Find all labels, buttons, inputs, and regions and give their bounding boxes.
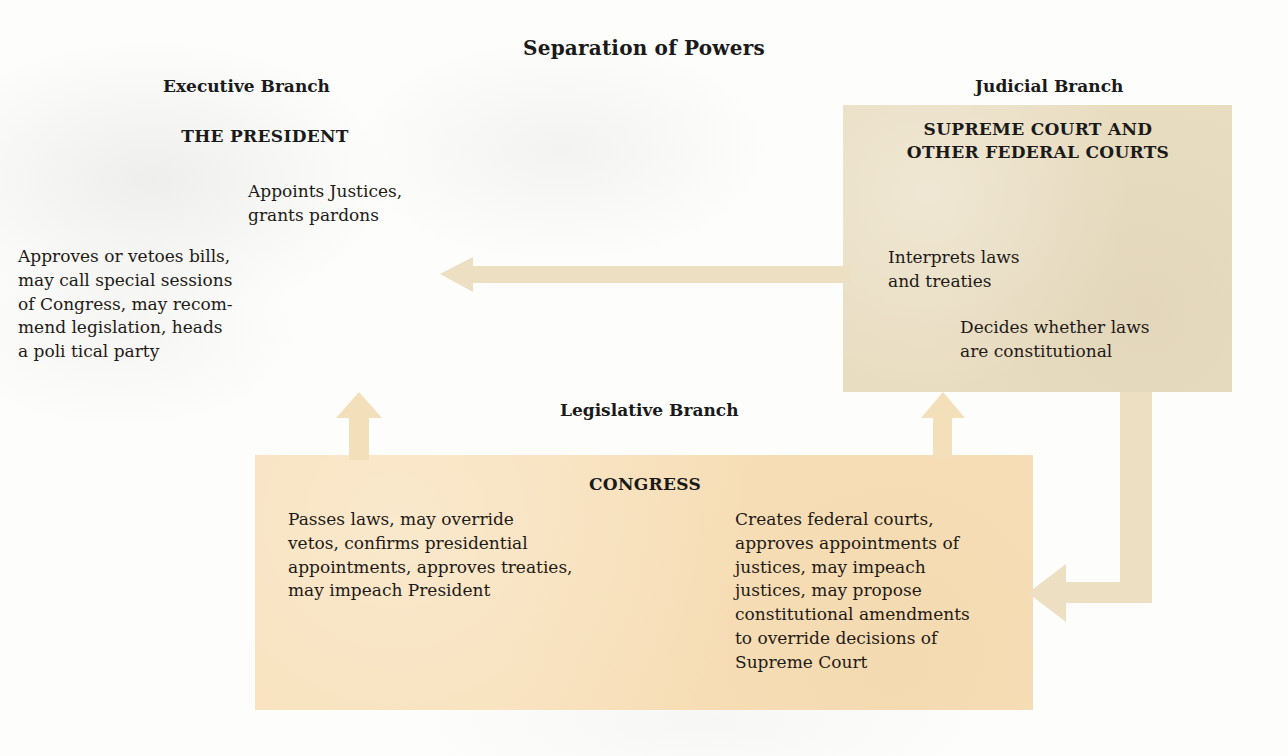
judicial-branch-label: Judicial Branch	[975, 76, 1123, 96]
executive-org-title: THE PRESIDENT	[130, 125, 400, 148]
arrow-legislative-to-judicial	[918, 392, 968, 460]
executive-power-appoints: Appoints Justices, grants pardons	[248, 180, 458, 228]
arrow-judicial-to-legislative	[1028, 392, 1173, 622]
diagram-canvas: Separation of Powers Executive Branch Ju…	[0, 0, 1288, 756]
executive-branch-label: Executive Branch	[163, 76, 330, 96]
judicial-org-title: SUPREME COURT AND OTHER FEDERAL COURTS	[868, 118, 1208, 164]
judicial-power-interprets: Interprets laws and treaties	[888, 246, 1108, 294]
legislative-power-passes-laws: Passes laws, may override vetos, confirm…	[288, 508, 688, 603]
arrow-legislative-to-executive	[335, 392, 385, 460]
legislative-org-title: CONGRESS	[540, 473, 750, 496]
judicial-power-decides: Decides whether laws are constitutional	[960, 316, 1220, 364]
legislative-branch-label: Legislative Branch	[560, 400, 739, 420]
arrow-judicial-to-executive	[440, 255, 850, 295]
executive-power-approves: Approves or vetoes bills, may call speci…	[18, 245, 348, 364]
page-title: Separation of Powers	[0, 36, 1288, 60]
legislative-power-creates-courts: Creates federal courts, approves appoint…	[735, 508, 1035, 675]
